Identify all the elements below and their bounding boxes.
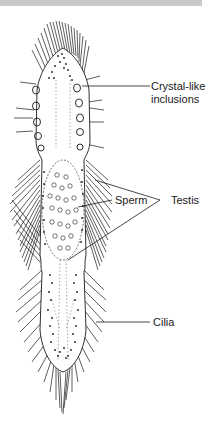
label-cilia: Cilia <box>153 316 174 328</box>
label-sperm: Sperm <box>115 194 147 206</box>
label-testis: Testis <box>171 194 199 206</box>
label-crystal-line2: inclusions <box>151 93 199 105</box>
testis-outline <box>42 160 84 260</box>
label-crystal-line1: Crystal-like <box>151 80 205 92</box>
organism-illustration <box>0 0 210 430</box>
